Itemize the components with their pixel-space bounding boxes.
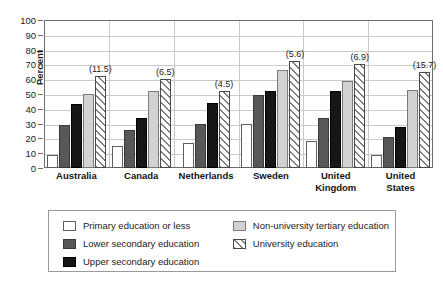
bar-nonuni-canada (148, 91, 159, 168)
bar-lower-netherlands (195, 124, 206, 168)
bar-upper-canada (136, 118, 147, 168)
bar-upper-united-states (395, 127, 406, 168)
legend-swatch-primary-icon (63, 221, 76, 231)
x-label-netherlands: Netherlands (174, 170, 239, 193)
bar-upper-sweden (265, 91, 276, 168)
bar-group-australia: (11.5) (44, 20, 109, 168)
bar-upper-australia (71, 104, 82, 168)
bar-lower-australia (59, 125, 70, 168)
y-tick-mark-50 (38, 94, 43, 95)
x-label-line: United (303, 170, 368, 182)
y-tick-mark-60 (38, 79, 43, 80)
annotation-sweden: (5.6) (286, 49, 305, 59)
annotation-canada: (6.5) (156, 67, 175, 77)
x-label-sweden: Sweden (238, 170, 303, 193)
annotation-netherlands: (4.5) (215, 79, 234, 89)
legend-item-lower: Lower secondary education (63, 238, 211, 249)
bar-nonuni-sweden (277, 70, 288, 168)
legend-label: Primary education or less (83, 220, 190, 231)
bar-group-united-kingdom: (6.9) (303, 20, 368, 168)
legend-item-upper: Upper secondary education (63, 256, 211, 267)
bar-group-united-states: (15.7) (368, 20, 433, 168)
x-label-united-states: UnitedStates (368, 170, 433, 193)
x-label-line: Kingdom (303, 182, 368, 194)
bar-group-sweden: (5.6) (238, 20, 303, 168)
bar-lower-canada (124, 130, 135, 168)
bar-primary-canada (112, 146, 123, 168)
bar-uni-sweden: (5.6) (289, 61, 300, 168)
y-tick-60: 60 (25, 74, 36, 85)
y-tick-100: 100 (20, 15, 36, 26)
y-tick-50: 50 (25, 89, 36, 100)
bar-uni-canada: (6.5) (160, 79, 171, 168)
bar-lower-sweden (253, 95, 264, 168)
legend-label: University education (253, 238, 339, 249)
bar-uni-united-states: (15.7) (419, 72, 430, 168)
legend-item-uni: University education (233, 238, 389, 249)
bar-nonuni-united-kingdom (342, 81, 353, 168)
x-label-line: Australia (44, 170, 109, 182)
y-tick-mark-10 (38, 153, 43, 154)
legend-label: Upper secondary education (83, 256, 199, 267)
y-tick-mark-80 (38, 50, 43, 51)
x-label-line: Netherlands (174, 170, 239, 182)
legend-swatch-uni-icon (233, 239, 246, 249)
y-tick-mark-40 (38, 109, 43, 110)
x-axis-tick-labels: AustraliaCanadaNetherlandsSwedenUnitedKi… (44, 170, 433, 193)
y-tick-30: 30 (25, 118, 36, 129)
bar-primary-netherlands (183, 143, 194, 168)
legend-label: Lower secondary education (83, 238, 199, 249)
y-tick-mark-90 (38, 35, 43, 36)
bar-group-netherlands: (4.5) (174, 20, 239, 168)
y-tick-mark-70 (38, 64, 43, 65)
y-tick-mark-0 (38, 168, 43, 169)
bar-primary-united-kingdom (306, 141, 317, 168)
x-label-line: United (368, 170, 433, 182)
bar-upper-netherlands (207, 103, 218, 168)
bar-lower-united-kingdom (318, 118, 329, 168)
x-label-line: Sweden (238, 170, 303, 182)
y-tick-90: 90 (25, 29, 36, 40)
annotation-united-kingdom: (6.9) (350, 52, 369, 62)
legend-swatch-upper-icon (63, 257, 76, 267)
bar-primary-sweden (241, 124, 252, 168)
legend-item-nonuni: Non-university tertiary education (233, 220, 389, 231)
x-label-united-kingdom: UnitedKingdom (303, 170, 368, 193)
y-tick-mark-30 (38, 124, 43, 125)
y-tick-0: 0 (31, 163, 36, 174)
x-label-australia: Australia (44, 170, 109, 193)
y-tick-40: 40 (25, 103, 36, 114)
legend-column-1: Primary education or lessLower secondary… (63, 220, 211, 267)
bar-uni-australia: (11.5) (95, 76, 106, 168)
bar-upper-united-kingdom (330, 91, 341, 168)
y-axis-tick-labels: 1009080706050403020100 (0, 0, 44, 190)
bar-primary-united-states (371, 155, 382, 168)
y-tick-10: 10 (25, 148, 36, 159)
bar-nonuni-australia (83, 94, 94, 168)
annotation-united-states: (15.7) (413, 60, 437, 70)
chart-legend: Primary education or lessLower secondary… (48, 210, 396, 272)
legend-item-primary: Primary education or less (63, 220, 211, 231)
bar-uni-united-kingdom: (6.9) (354, 64, 365, 168)
y-tick-80: 80 (25, 44, 36, 55)
bar-nonuni-united-states (407, 90, 418, 168)
bar-groups: (11.5)(6.5)(4.5)(5.6)(6.9)(15.7) (44, 20, 433, 168)
bar-group-canada: (6.5) (109, 20, 174, 168)
bar-lower-united-states (383, 137, 394, 168)
bar-primary-australia (47, 155, 58, 168)
x-label-canada: Canada (109, 170, 174, 193)
legend-swatch-lower-icon (63, 239, 76, 249)
y-tick-20: 20 (25, 133, 36, 144)
legend-label: Non-university tertiary education (253, 220, 389, 231)
legend-column-2: Non-university tertiary educationUnivers… (233, 220, 389, 267)
x-label-line: Canada (109, 170, 174, 182)
bar-chart: Percent 1009080706050403020100 (11.5)(6.… (0, 0, 443, 291)
y-tick-mark-100 (38, 20, 43, 21)
y-tick-70: 70 (25, 59, 36, 70)
legend-swatch-nonuni-icon (233, 221, 246, 231)
y-tick-mark-20 (38, 138, 43, 139)
x-label-line: States (368, 182, 433, 194)
bar-uni-netherlands: (4.5) (219, 91, 230, 168)
